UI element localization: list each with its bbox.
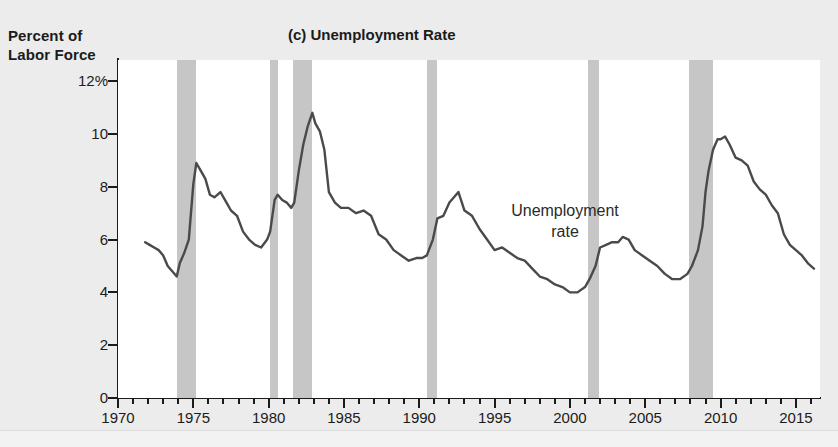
x-tick-1992: [448, 399, 450, 404]
x-tick-1999: [554, 399, 556, 404]
x-tick-1980: [268, 399, 270, 408]
x-tick-1983: [313, 399, 315, 404]
x-tick-1985: [343, 399, 345, 408]
x-tick-1971: [132, 399, 134, 404]
x-tick-2014: [780, 399, 782, 404]
x-tick-label-2005: 2005: [629, 409, 662, 426]
x-tick-1991: [433, 399, 435, 404]
y-tick-label: 0: [50, 389, 108, 406]
page-bottom-strip: [0, 430, 838, 447]
x-tick-1981: [283, 399, 285, 404]
x-tick-1994: [479, 399, 481, 404]
x-tick-label-2000: 2000: [553, 409, 586, 426]
x-tick-1974: [177, 399, 179, 404]
unemployment-rate-line: [118, 60, 820, 398]
annotation-line1: Unemployment: [505, 200, 625, 221]
y-axis-title-line2: Labor Force: [8, 45, 96, 64]
x-tick-label-1985: 1985: [327, 409, 360, 426]
x-tick-2000: [569, 399, 571, 408]
y-tick-label: 8: [50, 178, 108, 195]
y-tick-2: [108, 344, 118, 346]
x-tick-label-1995: 1995: [478, 409, 511, 426]
x-tick-label-2015: 2015: [779, 409, 812, 426]
y-tick-label: 2: [50, 336, 108, 353]
x-tick-1998: [539, 399, 541, 404]
annotation-line2: rate: [505, 221, 625, 242]
x-tick-2016: [810, 399, 812, 404]
x-tick-label-1975: 1975: [177, 409, 210, 426]
x-tick-2002: [599, 399, 601, 404]
y-tick-4: [108, 291, 118, 293]
x-tick-1973: [162, 399, 164, 404]
x-tick-1987: [373, 399, 375, 404]
x-tick-1970: [117, 399, 119, 408]
x-tick-1990: [418, 399, 420, 408]
y-tick-label: 4: [50, 283, 108, 300]
y-tick-6: [108, 239, 118, 241]
x-tick-1972: [147, 399, 149, 404]
x-tick-1978: [238, 399, 240, 404]
x-tick-1988: [388, 399, 390, 404]
x-tick-2001: [584, 399, 586, 404]
x-tick-2011: [735, 399, 737, 404]
x-tick-2013: [765, 399, 767, 404]
x-tick-1976: [207, 399, 209, 404]
x-tick-2009: [705, 399, 707, 404]
x-tick-1984: [328, 399, 330, 404]
x-tick-2015: [795, 399, 797, 408]
y-tick-label: 10: [50, 125, 108, 142]
x-tick-1996: [509, 399, 511, 404]
x-tick-label-1970: 1970: [101, 409, 134, 426]
y-tick-12%: [108, 80, 118, 82]
x-tick-2010: [720, 399, 722, 408]
x-tick-2004: [629, 399, 631, 404]
y-tick-8: [108, 186, 118, 188]
x-tick-label-2010: 2010: [704, 409, 737, 426]
x-tick-2005: [644, 399, 646, 408]
series-annotation: Unemployment rate: [505, 200, 625, 242]
chart-title: (c) Unemployment Rate: [288, 26, 456, 43]
x-tick-1993: [463, 399, 465, 404]
x-tick-2003: [614, 399, 616, 404]
x-tick-2007: [674, 399, 676, 404]
x-tick-1995: [494, 399, 496, 408]
x-tick-2008: [689, 399, 691, 404]
y-tick-label: 6: [50, 231, 108, 248]
x-tick-1977: [222, 399, 224, 404]
x-tick-1975: [192, 399, 194, 408]
x-tick-1979: [253, 399, 255, 404]
x-tick-2012: [750, 399, 752, 404]
x-tick-2006: [659, 399, 661, 404]
x-tick-label-1980: 1980: [252, 409, 285, 426]
plot-area: [118, 60, 820, 398]
x-tick-1986: [358, 399, 360, 404]
x-tick-1989: [403, 399, 405, 404]
y-tick-10: [108, 133, 118, 135]
x-tick-1982: [298, 399, 300, 404]
y-tick-label: 12%: [50, 72, 108, 89]
x-tick-label-1990: 1990: [403, 409, 436, 426]
x-tick-1997: [524, 399, 526, 404]
y-axis-title-line1: Percent of: [8, 26, 82, 45]
